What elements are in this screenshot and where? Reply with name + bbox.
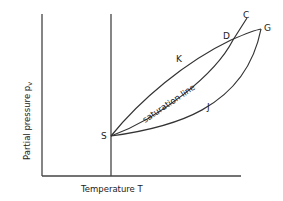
x-axis-label: Temperature T xyxy=(80,184,144,194)
point-label-c: C xyxy=(243,10,249,20)
curve-sjg xyxy=(111,29,261,136)
y-axis-label: Partial pressure pv xyxy=(22,82,34,160)
point-label-j: J xyxy=(206,102,210,112)
phase-diagram: S K J D C G saturation line Partial pres… xyxy=(0,0,283,201)
curve-skg xyxy=(111,29,261,136)
saturation-line-label: saturation line xyxy=(141,82,197,125)
y-axis-label-text: Partial pressure p xyxy=(22,86,32,160)
point-label-s: S xyxy=(101,131,107,141)
point-label-g: G xyxy=(264,23,271,33)
point-label-k: K xyxy=(176,54,183,64)
point-label-d: D xyxy=(223,31,230,41)
y-axis-label-subscript: v xyxy=(26,82,34,86)
